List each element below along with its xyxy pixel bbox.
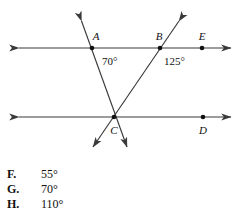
answer-choice-h-key: H. (7, 197, 33, 212)
answer-choice-f[interactable]: F. 55° (7, 167, 248, 182)
transversal-through-A-C (82, 21, 128, 147)
angle-measure-at-A: 70° (102, 55, 117, 67)
answer-choice-f-key: F. (7, 167, 33, 182)
answer-choice-g-key: G. (7, 182, 33, 197)
point-label-C: C (110, 124, 118, 136)
point-D-dot (201, 115, 206, 120)
angle-measure-at-B: 125° (164, 55, 185, 67)
geometry-diagram-svg: A B E C D 70° 125° (0, 0, 248, 165)
answer-choice-list: F. 55° G. 70° H. 110° (0, 165, 248, 215)
point-B-dot (158, 46, 163, 51)
point-label-A: A (92, 30, 100, 42)
point-A-dot (90, 46, 95, 51)
point-E-dot (200, 46, 205, 51)
answer-choice-h[interactable]: H. 110° (7, 197, 248, 212)
point-label-B: B (156, 30, 163, 42)
point-label-E: E (198, 30, 206, 42)
answer-choice-f-value: 55° (33, 167, 58, 182)
answer-choice-h-value: 110° (33, 197, 63, 212)
point-label-D: D (198, 124, 207, 136)
answer-choice-g[interactable]: G. 70° (7, 182, 248, 197)
transversal-through-B-C (93, 21, 179, 147)
point-C-dot (112, 115, 117, 120)
geometry-figure: A B E C D 70° 125° (0, 0, 248, 165)
answer-choice-g-value: 70° (33, 182, 58, 197)
